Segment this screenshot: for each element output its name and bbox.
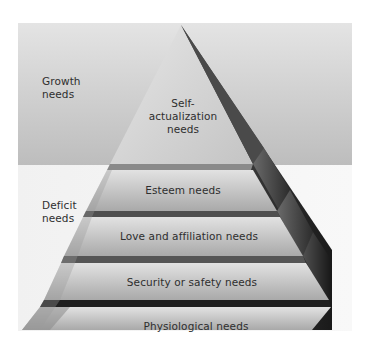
deficit-needs-label-line1: Deficit xyxy=(42,199,77,212)
maslow-pyramid-diagram: Growth needs Deficit needs Self- actuali… xyxy=(0,0,372,362)
tier-self-actualization-line2: actualization xyxy=(149,110,218,123)
growth-needs-label: Growth needs xyxy=(42,75,81,101)
tier-esteem-label: Esteem needs xyxy=(145,184,221,197)
tier-self-actualization-line3: needs xyxy=(149,123,218,136)
tier-love-affiliation-label: Love and affiliation needs xyxy=(120,230,258,243)
tier-security-safety-label: Security or safety needs xyxy=(127,276,257,289)
pyramid-graphic xyxy=(0,0,372,362)
growth-needs-label-line2: needs xyxy=(42,88,81,101)
deficit-needs-label: Deficit needs xyxy=(42,199,77,225)
tier-self-actualization-line1: Self- xyxy=(149,97,218,110)
tier-physiological-label: Physiological needs xyxy=(143,320,248,333)
deficit-needs-label-line2: needs xyxy=(42,212,77,225)
growth-needs-label-line1: Growth xyxy=(42,75,81,88)
tier-self-actualization-label: Self- actualization needs xyxy=(149,97,218,136)
